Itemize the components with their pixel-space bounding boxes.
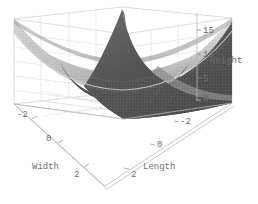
plot-canvas: 15 10 5 0 Height -2 0 2 Width 0 -2 0 2 L…	[0, 0, 258, 204]
x-tick-minus2	[32, 116, 37, 119]
y-tick-2	[124, 168, 129, 169]
x-tick-label-2: 2	[74, 170, 79, 180]
y-tick-0	[150, 144, 155, 145]
z-tick-label-15: 15	[203, 26, 214, 36]
x-tick-label-0: 0	[46, 134, 51, 144]
z-tick-label-5: 5	[203, 74, 208, 84]
x-axis-label: Width	[32, 162, 59, 172]
y-tick-label-0-top: 0	[203, 93, 208, 103]
y-axis-label: Length	[143, 162, 175, 172]
z-axis-label: Height	[210, 56, 242, 66]
y-tick-label-minus2: -2	[180, 117, 191, 127]
y-tick-label-0: 0	[157, 140, 162, 150]
surface-plot-3d-figure: 15 10 5 0 Height -2 0 2 Width 0 -2 0 2 L…	[0, 0, 258, 204]
x-tick-0	[58, 140, 63, 143]
y-tick-minus2	[174, 121, 179, 122]
box-edge-front-left-shadow	[17, 107, 107, 189]
x-axis-ticks	[32, 116, 89, 167]
surface-mesh	[14, 10, 232, 119]
x-tick-2	[84, 164, 89, 167]
x-tick-label-minus2: -2	[17, 110, 28, 120]
y-tick-label-2: 2	[131, 170, 136, 180]
